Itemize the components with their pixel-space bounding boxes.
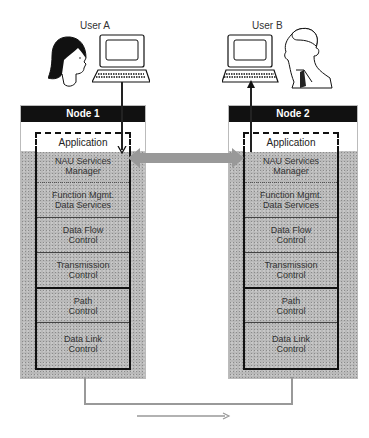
node-1-title: Node 1 bbox=[21, 106, 145, 122]
node-2-layer-fmds: Function Mgmt.Data Services bbox=[245, 183, 337, 218]
node-2: Node 2 Application NAU ServicesManager F… bbox=[228, 105, 358, 379]
peer-double-arrow-icon bbox=[128, 148, 244, 168]
node-2-application-layer: Application bbox=[243, 132, 339, 152]
node-1-layer-fmds: Function Mgmt.Data Services bbox=[37, 183, 129, 218]
node-2-layer-pc: PathControl bbox=[245, 289, 337, 323]
node-1-layer-dlc: Data LinkControl bbox=[37, 323, 129, 365]
node-2-layer-stack: NAU ServicesManager Function Mgmt.Data S… bbox=[243, 150, 339, 370]
man-user-icon bbox=[282, 26, 334, 90]
node-1: Node 1 Application NAU ServicesManager F… bbox=[20, 105, 146, 379]
node-2-layer-dfc: Data FlowControl bbox=[245, 218, 337, 253]
physical-link bbox=[84, 403, 293, 405]
user-a-label: User A bbox=[80, 20, 110, 31]
user-b-terminal-icon bbox=[222, 34, 280, 86]
flow-arrow-right-icon bbox=[137, 412, 231, 420]
user-a-terminal-icon bbox=[92, 34, 150, 86]
node-2-link-drop bbox=[291, 377, 293, 404]
node-2-layer-nau: NAU ServicesManager bbox=[245, 150, 337, 183]
arrow-up-icon bbox=[246, 80, 256, 88]
node-1-layer-nau: NAU ServicesManager bbox=[37, 150, 129, 183]
node-1-link-drop bbox=[84, 377, 86, 404]
node-1-layer-tc: TransmissionControl bbox=[37, 253, 129, 289]
node-2-title: Node 2 bbox=[229, 106, 357, 122]
node-2-layer-tc: TransmissionControl bbox=[245, 253, 337, 289]
user-a-to-app-line bbox=[121, 82, 123, 150]
node-2-layer-dlc: Data LinkControl bbox=[245, 323, 337, 365]
app-to-user-b-line bbox=[250, 84, 252, 152]
node-1-layer-stack: NAU ServicesManager Function Mgmt.Data S… bbox=[35, 150, 131, 370]
user-b-label: User B bbox=[252, 20, 283, 31]
node-1-layer-dfc: Data FlowControl bbox=[37, 218, 129, 253]
arrow-down-icon bbox=[117, 146, 127, 154]
node-1-layer-pc: PathControl bbox=[37, 289, 129, 323]
woman-user-icon bbox=[48, 34, 93, 89]
